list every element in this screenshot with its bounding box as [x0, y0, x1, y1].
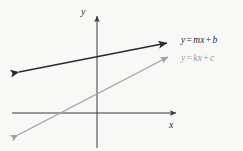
figure-canvas: y=mx+b y=kx+c y x — [0, 0, 243, 151]
line-dark — [19, 43, 167, 72]
line-dark-equation-label: y=mx+b — [181, 35, 217, 45]
eq1-plus: + — [205, 35, 213, 45]
line-gray-equation-label: y=kx+c — [181, 53, 214, 63]
eq2-plus: + — [202, 53, 210, 63]
y-axis-label: y — [81, 6, 85, 17]
diagram-svg — [0, 0, 243, 151]
eq1-x: x — [200, 35, 204, 45]
eq1-b: b — [213, 35, 218, 45]
x-axis-label: x — [169, 119, 173, 130]
line-gray — [18, 57, 168, 135]
eq2-c: c — [210, 53, 214, 63]
